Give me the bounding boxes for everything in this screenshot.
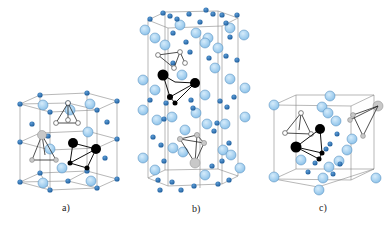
panel-a-atoms [17,90,119,192]
panel-c-label: c) [319,202,327,213]
crystal-structures-figure [0,0,392,225]
panel-a-label: a) [62,202,70,213]
panel-b-label: b) [192,203,200,214]
panel-b-atoms [138,7,250,192]
